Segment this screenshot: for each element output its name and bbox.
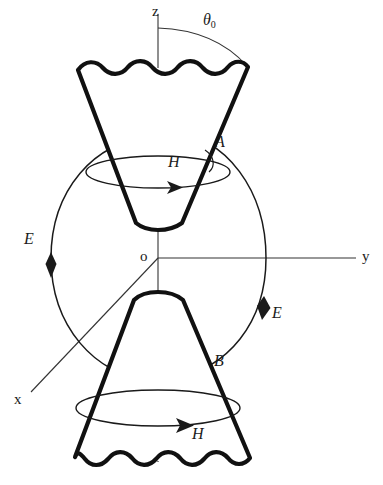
theta-subscript: 0 xyxy=(211,19,216,30)
h-field-label-lower: H xyxy=(192,426,204,442)
z-axis-label: z xyxy=(152,4,159,19)
point-b-label: B xyxy=(214,353,224,369)
theta-angle-arc xyxy=(158,28,247,66)
theta-symbol: θ xyxy=(203,11,211,28)
origin-label: o xyxy=(140,249,148,264)
x-axis-label: x xyxy=(14,392,22,407)
e-field-label-right: E xyxy=(272,305,282,321)
point-a-label: A xyxy=(215,134,225,150)
theta-zero-label: θ0 xyxy=(203,12,216,28)
e-field-label-left: E xyxy=(24,231,34,247)
e-arrow-right xyxy=(257,296,271,320)
h-field-label-upper: H xyxy=(168,154,180,170)
figure-canvas: z y x o θ0 E E H H A B xyxy=(0,0,383,485)
diagram-svg xyxy=(0,0,383,485)
e-arrow-left xyxy=(46,252,57,278)
y-axis-label: y xyxy=(362,249,370,264)
